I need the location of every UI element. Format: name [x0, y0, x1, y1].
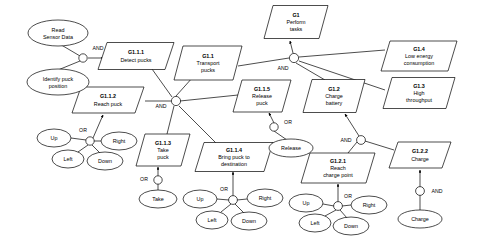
operator-label-or: OR: [344, 193, 352, 199]
goal-code: G1.1.1: [128, 49, 144, 55]
task-label: Read: [52, 27, 65, 33]
goal-node-G1-1-2[interactable]: G1.1.2Reach puck: [72, 87, 144, 113]
edge-g115-to-andg11: [180, 95, 238, 101]
task-node-right-1[interactable]: Right: [101, 132, 137, 150]
goal-node-G1-4[interactable]: G1.4Low energyconsumption: [381, 41, 457, 71]
edge-g12-to-andg1: [296, 63, 325, 80]
task-label: Down: [242, 218, 256, 224]
goal-label: High: [413, 90, 424, 96]
edge-andg1-to-g1: [290, 41, 293, 53]
goal-node-G1-2[interactable]: G1.2Chargebattery: [303, 80, 365, 113]
operator-and-charge[interactable]: [416, 187, 425, 196]
goal-node-G1[interactable]: G1Performtasks: [264, 6, 328, 39]
task-label: Charge: [411, 216, 429, 222]
goal-label: pucks: [201, 67, 215, 73]
goal-label: destination: [221, 161, 247, 167]
task-label: Down: [98, 158, 112, 164]
goal-label: charge point: [323, 172, 353, 178]
task-node-down-2[interactable]: Down: [231, 212, 267, 230]
edge-org112-to-g112: [93, 115, 103, 138]
operator-label-and: AND: [156, 103, 167, 109]
goal-label: tasks: [290, 26, 303, 32]
goal-code: G1.1: [202, 53, 214, 59]
task-node-charge[interactable]: Charge: [398, 210, 442, 228]
task-label: Down: [344, 223, 358, 229]
goal-node-G1-1-3[interactable]: G1.1.3Takepuck: [136, 134, 190, 166]
edge-left3-to-or: [325, 210, 336, 216]
diagram-canvas: G1PerformtasksG1.1.1Detect pucksG1.1Tran…: [0, 0, 480, 242]
task-node-up-3[interactable]: Up: [289, 194, 323, 212]
edge-down3-to-or: [340, 210, 347, 218]
goal-label: Perform: [286, 19, 306, 25]
goal-label: Charge: [411, 156, 429, 162]
operator-label-or: OR: [220, 186, 228, 192]
edge-g113-to-andg11: [167, 106, 174, 134]
goal-code: G1.2: [328, 86, 340, 92]
operator-and-g12[interactable]: [357, 136, 366, 145]
goal-code: G1: [292, 12, 299, 18]
task-node-down-1[interactable]: Down: [87, 152, 123, 170]
operator-or-release[interactable]: [270, 123, 278, 131]
goal-label: throughput: [406, 97, 432, 103]
task-node-left-1[interactable]: Left: [52, 150, 84, 168]
goal-label: Low energy: [405, 53, 433, 59]
goal-node-G1-1-1[interactable]: G1.1.1Detect pucks: [98, 43, 174, 70]
operator-label-or: OR: [79, 127, 87, 133]
operator-label-or: OR: [140, 176, 148, 182]
task-node-up-2[interactable]: Up: [183, 190, 217, 208]
operator-or-take[interactable]: [154, 176, 162, 184]
goal-label: Reach: [330, 165, 346, 171]
goal-label: Detect pucks: [120, 57, 151, 63]
task-node-right-2[interactable]: Right: [247, 189, 283, 207]
operator-and-g11[interactable]: [171, 96, 180, 105]
goal-node-G1-2-2[interactable]: G1.2.2Charge: [389, 142, 451, 168]
goal-label: Release: [252, 93, 272, 99]
task-node-identify-puck[interactable]: Identify puckposition: [27, 69, 89, 95]
goal-label: puck: [256, 100, 268, 106]
operator-or-g112[interactable]: [86, 137, 94, 145]
goal-node-G1-2-1[interactable]: G1.2.1Reachcharge point: [301, 153, 375, 183]
goal-label: Bring puck to: [218, 154, 249, 160]
edge-down1-to-or: [92, 145, 100, 153]
task-label: Right: [113, 138, 126, 144]
goal-label: Transport: [197, 60, 220, 66]
goal-node-G1-1-5[interactable]: G1.1.5Releasepuck: [233, 80, 291, 112]
operator-or-g114[interactable]: [229, 196, 238, 205]
edge-up1-to-or: [71, 138, 86, 140]
task-node-left-3[interactable]: Left: [299, 214, 331, 232]
goal-code: G1.1.2: [100, 93, 116, 99]
operator-label-and: AND: [432, 188, 443, 194]
goal-node-G1-1-4[interactable]: G1.1.4Bring puck todestination: [195, 143, 273, 172]
task-node-take[interactable]: Take: [139, 190, 177, 208]
task-label: Sensor Data: [43, 34, 73, 40]
edge-release-to-or: [274, 131, 287, 140]
task-label: Up: [51, 135, 58, 141]
task-node-up-1[interactable]: Up: [37, 129, 71, 147]
task-label: Take: [152, 196, 163, 202]
goal-code: G1.2.1: [330, 158, 346, 164]
operator-and-root[interactable]: [79, 54, 87, 62]
task-label: position: [49, 83, 68, 89]
edge-up2-to-or: [217, 199, 229, 200]
operator-and-g1[interactable]: [289, 53, 298, 62]
shapes-layer: G1PerformtasksG1.1.1Detect pucksG1.1Tran…: [27, 6, 457, 236]
task-node-left-2[interactable]: Left: [196, 211, 228, 229]
goal-code: G1.4: [413, 46, 425, 52]
operator-label-or: OR: [284, 119, 292, 125]
task-node-release[interactable]: Release: [269, 139, 313, 157]
task-label: Left: [208, 217, 217, 223]
operator-or-g121[interactable]: [334, 202, 343, 211]
task-node-read-sensor-data[interactable]: ReadSensor Data: [28, 20, 88, 46]
goal-node-G1-1[interactable]: G1.1Transportpucks: [174, 46, 242, 80]
operator-label-and: AND: [341, 137, 352, 143]
goal-label: consumption: [404, 60, 435, 66]
task-node-right-3[interactable]: Right: [351, 196, 387, 214]
edge-right2-to-or: [237, 199, 247, 200]
edge-right3-to-or: [342, 205, 351, 206]
goal-node-G1-3[interactable]: G1.3Highthroughput: [383, 78, 455, 109]
task-label: Up: [303, 200, 310, 206]
goal-label: battery: [326, 100, 343, 106]
goal-code: G1.3: [413, 83, 425, 89]
edge-up3-to-or: [323, 204, 334, 206]
task-node-down-3[interactable]: Down: [333, 217, 369, 235]
